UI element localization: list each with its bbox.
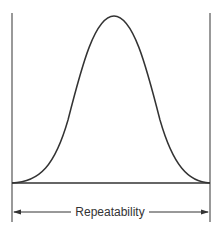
bell-curve <box>12 16 210 183</box>
repeatability-label: Repeatability <box>0 204 220 220</box>
label-text: Repeatability <box>71 205 148 219</box>
repeatability-diagram <box>0 0 220 233</box>
